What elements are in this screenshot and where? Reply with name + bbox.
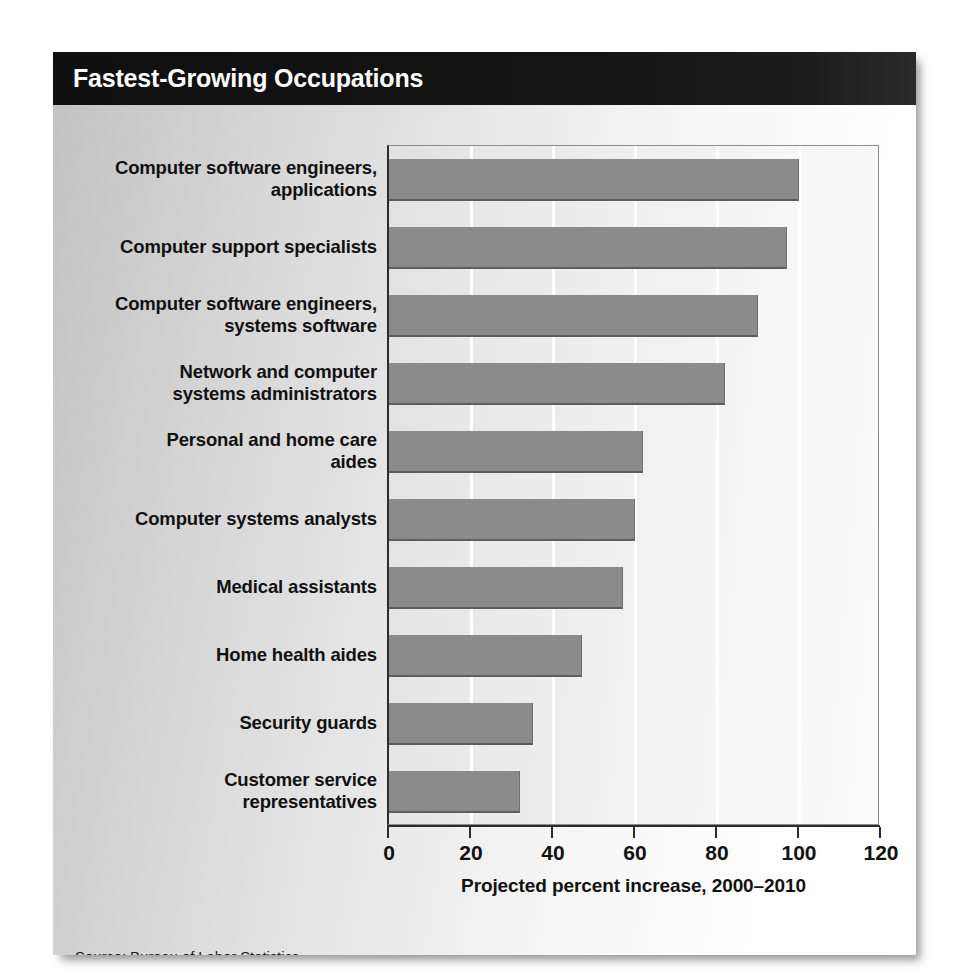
x-axis-title: Projected percent increase, 2000–2010 — [387, 875, 880, 897]
bar[interactable] — [389, 567, 623, 609]
category-label-line: Computer software engineers, — [57, 293, 377, 315]
bar[interactable] — [389, 499, 635, 541]
x-tick-0 — [387, 827, 389, 838]
bar[interactable] — [389, 295, 758, 337]
category-label: Security guards — [57, 712, 377, 734]
x-tick-120 — [879, 827, 881, 838]
category-label: Computer software engineers,applications — [57, 157, 377, 201]
bar-row — [389, 758, 878, 826]
category-label: Computer systems analysts — [57, 508, 377, 530]
category-label-line: aides — [57, 451, 377, 473]
category-label-line: applications — [57, 179, 377, 201]
x-tick-label: 80 — [687, 841, 747, 865]
bar[interactable] — [389, 431, 643, 473]
category-label: Computer software engineers,systems soft… — [57, 293, 377, 337]
category-label-line: Computer systems analysts — [57, 508, 377, 530]
category-label-line: Medical assistants — [57, 576, 377, 598]
bar[interactable] — [389, 227, 787, 269]
page-title: Fastest-Growing Occupations — [73, 64, 423, 93]
chart-title-bar: Fastest-Growing Occupations — [53, 52, 916, 105]
category-label: Computer support specialists — [57, 236, 377, 258]
category-label-line: Computer support specialists — [57, 236, 377, 258]
chart-area: Computer software engineers,applications… — [53, 105, 916, 955]
category-label: Customer servicerepresentatives — [57, 769, 377, 813]
category-label-line: Network and computer — [57, 361, 377, 383]
category-label-line: Personal and home care — [57, 429, 377, 451]
bar[interactable] — [389, 363, 725, 405]
bar[interactable] — [389, 635, 582, 677]
x-tick-label: 40 — [523, 841, 583, 865]
x-tick-60 — [633, 827, 635, 838]
bar-row — [389, 350, 878, 418]
bar-row — [389, 554, 878, 622]
x-tick-20 — [469, 827, 471, 838]
category-label-line: Security guards — [57, 712, 377, 734]
x-tick-80 — [715, 827, 717, 838]
category-label-line: Computer software engineers, — [57, 157, 377, 179]
bar-row — [389, 282, 878, 350]
bar[interactable] — [389, 771, 520, 813]
x-tick-label: 20 — [441, 841, 501, 865]
x-tick-label: 100 — [769, 841, 829, 865]
bar-row — [389, 214, 878, 282]
x-tick-label: 120 — [851, 841, 911, 865]
x-tick-100 — [797, 827, 799, 838]
x-tick-40 — [551, 827, 553, 838]
category-label-line: Home health aides — [57, 644, 377, 666]
x-tick-label: 0 — [359, 841, 419, 865]
category-label: Personal and home careaides — [57, 429, 377, 473]
category-label-line: Customer service — [57, 769, 377, 791]
bar-row — [389, 146, 878, 214]
category-label-line: systems administrators — [57, 383, 377, 405]
category-label: Network and computersystems administrato… — [57, 361, 377, 405]
bar[interactable] — [389, 159, 799, 201]
category-label: Medical assistants — [57, 576, 377, 598]
bar-row — [389, 486, 878, 554]
chart-card: Fastest-Growing Occupations Computer sof… — [53, 52, 916, 955]
category-axis-labels: Computer software engineers,applications… — [53, 145, 383, 825]
plot-area — [387, 145, 879, 825]
bar-row — [389, 690, 878, 758]
category-label: Home health aides — [57, 644, 377, 666]
bar-row — [389, 622, 878, 690]
bar-row — [389, 418, 878, 486]
bar[interactable] — [389, 703, 533, 745]
source-note: Source: Bureau of Labor Statistics — [75, 948, 299, 955]
x-tick-label: 60 — [605, 841, 665, 865]
category-label-line: systems software — [57, 315, 377, 337]
category-label-line: representatives — [57, 791, 377, 813]
